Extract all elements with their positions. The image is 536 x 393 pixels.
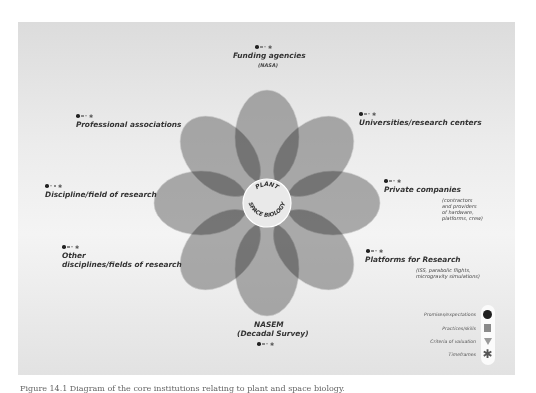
square-icon — [260, 46, 263, 49]
sub-line: microgravity simulations) — [416, 273, 480, 279]
label-platforms: Platforms for Research — [365, 256, 461, 265]
square-icon — [364, 113, 367, 116]
legend-square — [483, 324, 492, 332]
triangle-icon — [71, 246, 73, 248]
stakeholder-icons: ✱ — [255, 44, 272, 50]
triangle-icon — [484, 338, 492, 345]
sub-line: platforms, crew) — [442, 215, 483, 221]
legend-circle — [483, 310, 492, 319]
figure-caption: Figure 14.1 Diagram of the core institut… — [20, 384, 345, 393]
circle-icon — [255, 45, 259, 49]
circle-icon — [62, 245, 66, 249]
legend-label: Timeframes — [449, 352, 476, 357]
circle-icon — [366, 249, 370, 253]
square-icon — [54, 185, 57, 188]
asterisk-icon: ✱ — [268, 45, 272, 50]
stakeholder-icons: ✱ — [76, 113, 93, 119]
asterisk-icon: ✱ — [58, 184, 62, 189]
circle-icon — [76, 114, 80, 118]
circle-icon — [359, 112, 363, 116]
legend-asterisk: ✱ — [483, 349, 492, 359]
triangle-icon — [85, 115, 87, 117]
legend-triangle — [483, 338, 492, 345]
triangle-icon — [375, 250, 377, 252]
square-icon — [81, 115, 84, 118]
sub-funding-agencies: (NASA) — [258, 62, 278, 68]
circle-icon — [257, 342, 261, 346]
sub-nasem: (Decadal Survey) — [237, 330, 309, 339]
label-funding-agencies: Funding agencies — [233, 52, 306, 61]
asterisk-icon: ✱ — [482, 349, 492, 359]
label-universities: Universities/research centers — [359, 119, 482, 128]
legend: Promises/expectations Practices/skills C… — [400, 308, 508, 366]
stakeholder-icons: ✱ — [257, 341, 274, 347]
label-private-companies: Private companies — [384, 186, 461, 195]
square-icon — [67, 246, 70, 249]
legend-label: Criteria of valuation — [430, 339, 476, 344]
sub-platforms: (ISS, parabolic flights, microgravity si… — [416, 267, 480, 279]
stakeholder-icons: ✱ — [62, 244, 79, 250]
stakeholder-icons: ✱ — [45, 183, 62, 189]
circle-icon — [483, 310, 492, 319]
asterisk-icon: ✱ — [372, 112, 376, 117]
triangle-icon — [393, 180, 395, 182]
square-icon — [389, 180, 392, 183]
stakeholder-icons: ✱ — [359, 111, 376, 117]
label-professional-associations: Professional associations — [76, 121, 181, 130]
asterisk-icon: ✱ — [75, 245, 79, 250]
square-icon — [484, 324, 492, 332]
label-discipline: Discipline/field of research — [45, 191, 157, 200]
circle-icon — [45, 184, 49, 188]
asterisk-icon: ✱ — [89, 114, 93, 119]
square-icon — [262, 343, 265, 346]
triangle-icon — [368, 113, 370, 115]
sub-private-companies: (contractors and providers of hardware, … — [442, 197, 483, 221]
legend-label: Promises/expectations — [424, 312, 476, 317]
stakeholder-icons: ✱ — [366, 248, 383, 254]
asterisk-icon: ✱ — [270, 342, 274, 347]
asterisk-icon: ✱ — [379, 249, 383, 254]
triangle-icon — [264, 46, 266, 48]
asterisk-icon: ✱ — [397, 179, 401, 184]
circle-icon — [384, 179, 388, 183]
triangle-icon — [50, 185, 52, 187]
label-other-disciplines: Other disciplines/fields of research — [62, 252, 182, 269]
stakeholder-icons: ✱ — [384, 178, 401, 184]
triangle-icon — [266, 343, 268, 345]
label-line: disciplines/fields of research — [62, 261, 182, 270]
legend-label: Practices/skills — [442, 326, 476, 331]
square-icon — [371, 250, 374, 253]
